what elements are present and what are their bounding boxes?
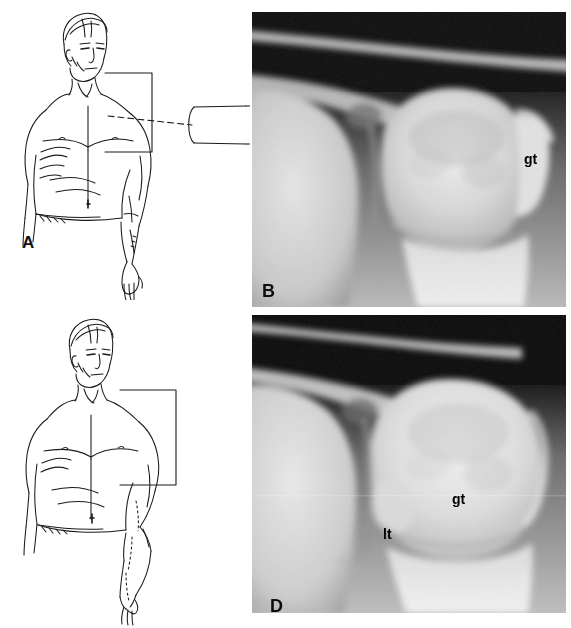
plate-letter-a: A (22, 234, 35, 251)
radiograph-internal-rotation (252, 315, 566, 613)
torso-illustration-a (25, 106, 151, 223)
figure-container: A (0, 0, 571, 628)
radiograph-external-rotation (252, 12, 566, 307)
patient-internal-rotation-illustration (0, 305, 250, 628)
head-illustration-a (63, 13, 107, 81)
caption-artifact-strip (380, 614, 570, 626)
patient-external-rotation-illustration (0, 0, 250, 300)
cassette-outline-c (120, 390, 176, 485)
central-ray-dashed-a (108, 116, 192, 125)
arm-external-rotation-a (121, 170, 148, 300)
panel-a-line-drawing: A (0, 0, 250, 300)
panel-b-radiograph: B gt (252, 12, 566, 307)
panel-c-line-drawing: C (0, 305, 250, 628)
panel-d-radiograph: D gt lt (252, 315, 566, 613)
label-greater-tuberosity-d: gt (452, 492, 465, 506)
xray-tube-collimator-a (189, 106, 250, 144)
label-lesser-tuberosity-d: lt (383, 527, 392, 541)
plate-letter-d: D (270, 597, 284, 615)
plate-letter-b: B (262, 282, 276, 300)
head-illustration-c (69, 319, 113, 387)
arm-internal-rotation-c (120, 483, 155, 625)
label-greater-tuberosity-b: gt (524, 152, 537, 166)
torso-illustration-c (26, 415, 159, 534)
